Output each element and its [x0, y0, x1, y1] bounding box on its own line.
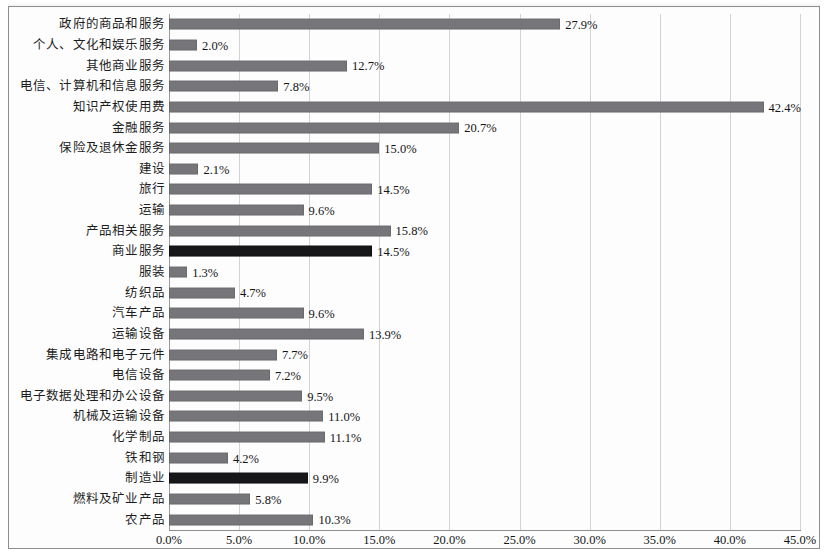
category-label: 电信、计算机和信息服务	[20, 80, 165, 93]
category-label: 燃料及矿业产品	[73, 493, 165, 506]
bar-value-label: 9.5%	[307, 390, 333, 403]
bar-value-label: 15.0%	[384, 142, 416, 155]
bar[interactable]	[169, 205, 304, 216]
category-label: 金融服务	[112, 121, 165, 134]
bar-row: 燃料及矿业产品5.8%	[0, 489, 828, 510]
bar[interactable]	[169, 81, 278, 92]
bar[interactable]	[169, 494, 250, 505]
bar[interactable]	[169, 473, 308, 484]
category-label: 集成电路和电子元件	[46, 348, 165, 361]
bar-value-label: 9.6%	[309, 204, 335, 217]
bar[interactable]	[169, 246, 372, 257]
bar-value-label: 42.4%	[769, 101, 801, 114]
bar-row: 农产品10.3%	[0, 509, 828, 530]
bar-value-label: 4.7%	[240, 287, 266, 300]
bar[interactable]	[169, 184, 372, 195]
bar-and-value: 10.3%	[169, 514, 351, 525]
bar[interactable]	[169, 122, 459, 133]
bar-value-label: 14.5%	[377, 246, 409, 259]
category-label: 纺织品	[125, 286, 165, 299]
bar[interactable]	[169, 163, 198, 174]
bar-row: 其他商业服务12.7%	[0, 55, 828, 76]
bar-value-label: 4.2%	[233, 452, 259, 465]
bar-row: 铁和钢4.2%	[0, 447, 828, 468]
bar-and-value: 2.0%	[169, 39, 228, 50]
bar-value-label: 7.2%	[275, 369, 301, 382]
bar-value-label: 11.1%	[330, 431, 362, 444]
category-label: 电子数据处理和办公设备	[20, 390, 165, 403]
bar-and-value: 1.3%	[169, 266, 218, 277]
bar-value-label: 5.8%	[255, 493, 281, 506]
bar-row: 个人、文化和娱乐服务2.0%	[0, 35, 828, 56]
bar[interactable]	[169, 60, 347, 71]
bar-value-label: 7.8%	[283, 80, 309, 93]
category-label: 保险及退休金服务	[59, 142, 165, 155]
bar[interactable]	[169, 39, 197, 50]
bar[interactable]	[169, 19, 560, 30]
bar[interactable]	[169, 143, 379, 154]
bar[interactable]	[169, 411, 323, 422]
bar-row: 运输9.6%	[0, 200, 828, 221]
bar-and-value: 27.9%	[169, 19, 598, 30]
category-label: 铁和钢	[125, 452, 165, 465]
bar-and-value: 15.0%	[169, 143, 417, 154]
bar-and-value: 12.7%	[169, 60, 384, 71]
bar-value-label: 2.1%	[203, 163, 229, 176]
bar-and-value: 2.1%	[169, 163, 229, 174]
x-axis-line	[169, 530, 801, 531]
bar-row: 金融服务20.7%	[0, 117, 828, 138]
bar[interactable]	[169, 514, 313, 525]
bar-value-label: 9.9%	[313, 473, 339, 486]
category-label: 知识产权使用费	[73, 101, 165, 114]
bar-and-value: 7.7%	[169, 349, 308, 360]
bar-row: 电信设备7.2%	[0, 365, 828, 386]
bar-value-label: 20.7%	[464, 122, 496, 135]
bar-and-value: 4.2%	[169, 452, 259, 463]
bar[interactable]	[169, 390, 302, 401]
bar-and-value: 5.8%	[169, 494, 281, 505]
bar[interactable]	[169, 225, 391, 236]
bar-row: 电子数据处理和办公设备9.5%	[0, 386, 828, 407]
category-label: 农产品	[125, 513, 165, 526]
bar-row: 建设2.1%	[0, 158, 828, 179]
bar-row: 化学制品11.1%	[0, 427, 828, 448]
bar[interactable]	[169, 452, 228, 463]
bar[interactable]	[169, 308, 304, 319]
bar-and-value: 14.5%	[169, 184, 410, 195]
category-label: 政府的商品和服务	[59, 18, 165, 31]
category-label: 化学制品	[112, 431, 165, 444]
bar-and-value: 7.8%	[169, 81, 309, 92]
bar[interactable]	[169, 349, 277, 360]
category-label: 服装	[139, 266, 165, 279]
bar-and-value: 11.1%	[169, 432, 361, 443]
bar-and-value: 7.2%	[169, 370, 301, 381]
bar-and-value: 11.0%	[169, 411, 360, 422]
category-label: 其他商业服务	[86, 59, 165, 72]
bar[interactable]	[169, 287, 235, 298]
bar[interactable]	[169, 432, 325, 443]
bar-row: 集成电路和电子元件7.7%	[0, 344, 828, 365]
bar-value-label: 14.5%	[377, 184, 409, 197]
bar-and-value: 9.6%	[169, 205, 335, 216]
bar[interactable]	[169, 328, 364, 339]
category-label: 旅行	[139, 183, 165, 196]
bar[interactable]	[169, 266, 187, 277]
bar-and-value: 9.6%	[169, 308, 335, 319]
bar[interactable]	[169, 101, 764, 112]
bar[interactable]	[169, 370, 270, 381]
horizontal-bar-chart: 0.0%5.0%10.0%15.0%20.0%25.0%30.0%35.0%40…	[0, 0, 828, 557]
bar-row: 运输设备13.9%	[0, 324, 828, 345]
bar-value-label: 7.7%	[282, 349, 308, 362]
bar-and-value: 42.4%	[169, 101, 801, 112]
bar-value-label: 9.6%	[309, 308, 335, 321]
bar-value-label: 2.0%	[202, 39, 228, 52]
bar-value-label: 1.3%	[192, 266, 218, 279]
category-label: 个人、文化和娱乐服务	[33, 39, 165, 52]
bar-row: 政府的商品和服务27.9%	[0, 14, 828, 35]
category-label: 运输	[139, 204, 165, 217]
bar-row: 产品相关服务15.8%	[0, 220, 828, 241]
category-label: 建设	[139, 163, 165, 176]
bar-row: 服装1.3%	[0, 262, 828, 283]
bar-row: 纺织品4.7%	[0, 282, 828, 303]
category-label: 制造业	[125, 472, 165, 485]
